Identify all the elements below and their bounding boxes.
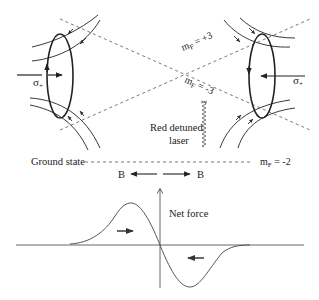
field-line: [240, 18, 295, 38]
b-left-label: B: [118, 169, 125, 180]
net-force-label: Net force: [169, 208, 209, 219]
net-force-graph: Net force: [16, 189, 304, 288]
field-line: [220, 100, 290, 148]
field-line: [224, 20, 290, 47]
mf-plus3-label: mF = +3: [179, 29, 214, 54]
field-line: [30, 98, 100, 148]
field-arrow-icon: [248, 119, 253, 124]
field-arrow-icon: [234, 36, 240, 42]
laser-label-line2: laser: [169, 135, 189, 146]
field-arrow-icon: [249, 28, 255, 34]
excitation-point-icon: [201, 101, 207, 103]
field-arrow-icon: [80, 111, 84, 116]
right-coil: [220, 18, 295, 148]
b-right-label: B: [197, 169, 204, 180]
field-line: [238, 108, 295, 148]
field-line: [32, 20, 100, 61]
mf-minus2-label: mF = -2: [260, 156, 291, 169]
mot-diagram: σ+ σ+ mF = +3 mF = -3 Red detuned laser …: [0, 0, 319, 300]
ground-state-label: Ground state: [31, 156, 85, 167]
field-arrow-icon: [80, 38, 86, 44]
mf-minus3-label: mF = -3: [182, 74, 215, 98]
sigma-left-label: σ+: [33, 76, 43, 90]
field-line: [30, 105, 88, 150]
field-arrow-icon: [68, 116, 72, 121]
laser-label-line1: Red detuned: [150, 122, 204, 133]
diagram-svg: σ+ σ+ mF = +3 mF = -3 Red detuned laser …: [0, 0, 319, 300]
